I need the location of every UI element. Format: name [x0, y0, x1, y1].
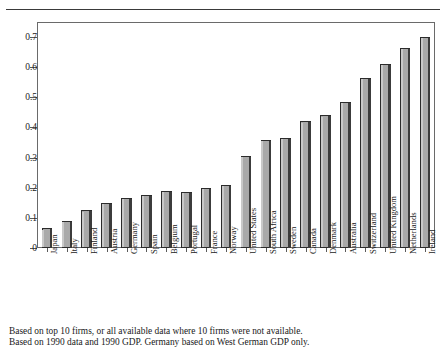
- x-axis-category-label: Germany: [130, 222, 139, 254]
- bar-highlight-edge: [261, 141, 263, 247]
- x-axis-category-label: Canada: [309, 228, 318, 254]
- x-axis-category-label: France: [210, 231, 219, 254]
- y-axis-tick-label: 0.1: [13, 213, 37, 223]
- bar-highlight-edge: [102, 204, 104, 247]
- bar-highlight-edge: [381, 65, 383, 247]
- x-axis-category-label: Switzerland: [369, 213, 378, 254]
- bar-highlight-edge: [42, 230, 44, 248]
- x-axis-category-label: Japan: [50, 234, 59, 254]
- y-axis-tick-label: 0.5: [13, 93, 37, 103]
- x-axis-category-label: Norway: [229, 226, 238, 254]
- bar-highlight-edge: [281, 139, 283, 247]
- y-axis-tick-label: 0.2: [13, 183, 37, 193]
- x-axis-tick-mark: [405, 248, 406, 252]
- y-axis: 00.10.20.30.40.50.60.7: [0, 0, 37, 357]
- bar-highlight-edge: [341, 103, 343, 247]
- x-axis-tick-mark: [385, 248, 386, 252]
- x-axis-tick-mark: [246, 248, 247, 252]
- x-axis-tick-mark: [326, 248, 327, 252]
- title-divider-rule: [6, 9, 440, 10]
- x-axis-tick-mark: [166, 248, 167, 252]
- x-axis-tick-mark: [345, 248, 346, 252]
- bar-highlight-edge: [401, 49, 403, 247]
- bar-shadow-edge: [428, 38, 431, 248]
- bar-highlight-edge: [202, 189, 204, 247]
- x-axis-category-label: Netherlands: [409, 212, 418, 254]
- x-axis-tick-mark: [67, 248, 68, 252]
- x-axis-category-label: Sweden: [289, 227, 298, 254]
- x-axis-category-label: United States: [249, 208, 258, 254]
- x-axis-tick-mark: [286, 248, 287, 252]
- x-axis-tick-mark: [206, 248, 207, 252]
- x-axis-tick-mark: [87, 248, 88, 252]
- x-axis-category-label: Italy: [70, 238, 79, 254]
- y-axis-tick-label: 0.6: [13, 63, 37, 73]
- bar-highlight-edge: [122, 199, 124, 247]
- x-axis-tick-mark: [306, 248, 307, 252]
- y-axis-tick-label: 0.4: [13, 123, 37, 133]
- bar-highlight-edge: [301, 123, 303, 248]
- x-axis-category-label: Australia: [349, 222, 358, 254]
- x-axis-category-label: Belgium: [170, 224, 179, 254]
- x-axis-tick-mark: [425, 248, 426, 252]
- footnote-line: Based on 1990 data and 1990 GDP. Germany…: [9, 337, 439, 348]
- x-axis-category-label: Finland: [90, 228, 99, 254]
- bar-highlight-edge: [361, 79, 363, 247]
- bar-highlight-edge: [82, 212, 84, 248]
- x-axis-category-label: South Africa: [269, 210, 278, 254]
- bar-highlight-edge: [222, 186, 224, 247]
- figure-title: [8, 0, 438, 9]
- x-axis-category-label: Austria: [110, 229, 119, 254]
- y-axis-tick-label: 0: [13, 244, 37, 254]
- y-axis-tick-label: 0.3: [13, 153, 37, 163]
- x-axis-tick-mark: [146, 248, 147, 252]
- x-axis: JapanItalyFinlandAustriaGermanySpainBelg…: [37, 248, 435, 318]
- x-axis-tick-mark: [47, 248, 48, 252]
- x-axis-category-label: Denmark: [329, 222, 338, 254]
- bar-highlight-edge: [142, 196, 144, 247]
- x-axis-category-label: United Kingdom: [389, 196, 398, 254]
- footnote-line: Based on top 10 firms, or all available …: [9, 326, 439, 337]
- bar-highlight-edge: [421, 38, 423, 247]
- y-axis-tick-label: 0.7: [13, 33, 37, 43]
- x-axis-tick-mark: [107, 248, 108, 252]
- x-axis-tick-mark: [186, 248, 187, 252]
- footnote-block: Based on top 10 firms, or all available …: [9, 326, 439, 349]
- x-axis-category-label: Ireland: [428, 230, 437, 254]
- x-axis-tick-mark: [226, 248, 227, 252]
- x-axis-category-label: Portugal: [190, 225, 199, 254]
- bar-highlight-edge: [182, 193, 184, 247]
- x-axis-tick-mark: [266, 248, 267, 252]
- x-axis-tick-mark: [127, 248, 128, 252]
- bar: [420, 37, 431, 248]
- bar-highlight-edge: [162, 192, 164, 247]
- x-axis-category-label: Spain: [150, 234, 159, 254]
- bar-highlight-edge: [62, 222, 64, 247]
- bar-highlight-edge: [241, 157, 243, 247]
- x-axis-tick-mark: [365, 248, 366, 252]
- bar-highlight-edge: [321, 117, 323, 248]
